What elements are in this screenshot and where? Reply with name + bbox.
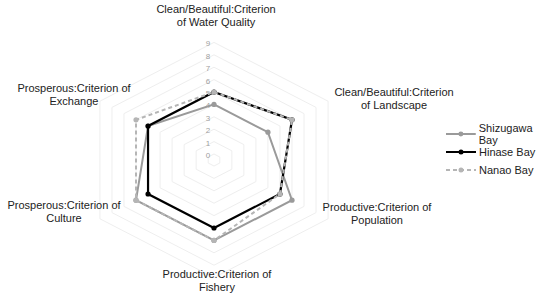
tick-label: 3 bbox=[206, 114, 211, 123]
axis-label-culture: Prosperous:Criterion of Culture bbox=[7, 199, 120, 225]
data-point bbox=[277, 191, 282, 196]
legend-swatch-hinase-icon bbox=[446, 147, 476, 157]
grid-ring bbox=[196, 142, 232, 179]
data-point bbox=[133, 117, 138, 122]
data-point bbox=[211, 102, 216, 107]
legend: Shizugawa Bay Hinase Bay Nanao Bay bbox=[446, 125, 554, 179]
legend-item-nanao: Nanao Bay bbox=[446, 161, 554, 179]
axis-label-line: Prosperous:Criterion of bbox=[7, 199, 120, 212]
axis-label-line: Clean/Beautiful:Criterion bbox=[156, 3, 275, 16]
axis-label-line: of Water Quality bbox=[156, 16, 275, 29]
grid-ring bbox=[148, 92, 280, 228]
axis-label-line: Productive:Criterion of bbox=[323, 201, 432, 214]
radar-chart: 0123456789 Clean/Beautiful:Criterion of … bbox=[0, 0, 554, 300]
grid-ring bbox=[160, 104, 268, 215]
tick-label: 8 bbox=[206, 52, 211, 61]
data-point bbox=[289, 117, 294, 122]
data-point bbox=[211, 225, 216, 230]
axis-label-line: Exchange bbox=[17, 95, 130, 108]
data-point bbox=[265, 130, 270, 135]
axis-label-line: of Landscape bbox=[334, 99, 453, 112]
tick-label: 0 bbox=[206, 151, 211, 160]
axis-label-population: Productive:Criterion of Population bbox=[323, 201, 432, 227]
legend-label: Hinase Bay bbox=[479, 146, 535, 158]
axis-label-line: Culture bbox=[7, 212, 120, 225]
data-point bbox=[145, 123, 150, 128]
axis-label-line: Productive:Criterion of bbox=[163, 268, 272, 281]
axis-label-line: Clean/Beautiful:Criterion bbox=[334, 86, 453, 99]
legend-swatch-shizugawa-icon bbox=[446, 129, 476, 139]
legend-item-shizugawa: Shizugawa Bay bbox=[446, 125, 554, 143]
data-point bbox=[133, 198, 138, 203]
tick-label: 6 bbox=[206, 77, 211, 86]
legend-swatch-nanao-icon bbox=[446, 165, 476, 175]
data-point bbox=[145, 191, 150, 196]
axis-label-line: Prosperous:Criterion of bbox=[17, 82, 130, 95]
axis-label-exchange: Prosperous:Criterion of Exchange bbox=[17, 82, 130, 108]
tick-label: 1 bbox=[206, 139, 211, 148]
axis-label-landscape: Clean/Beautiful:Criterion of Landscape bbox=[334, 86, 453, 112]
axis-label-line: Fishery bbox=[163, 281, 272, 294]
data-point bbox=[289, 198, 294, 203]
legend-label: Shizugawa Bay bbox=[479, 122, 554, 146]
tick-label: 7 bbox=[206, 64, 211, 73]
legend-label: Nanao Bay bbox=[479, 164, 533, 176]
tick-label: 9 bbox=[206, 39, 211, 48]
tick-label: 2 bbox=[206, 126, 211, 135]
axis-label-fishery: Productive:Criterion of Fishery bbox=[163, 268, 272, 294]
axis-label-water-quality: Clean/Beautiful:Criterion of Water Quali… bbox=[156, 3, 275, 29]
data-point bbox=[211, 238, 216, 243]
data-point bbox=[211, 89, 216, 94]
axis-label-line: Population bbox=[323, 214, 432, 227]
grid-ring bbox=[184, 129, 244, 191]
series-line bbox=[136, 104, 292, 240]
